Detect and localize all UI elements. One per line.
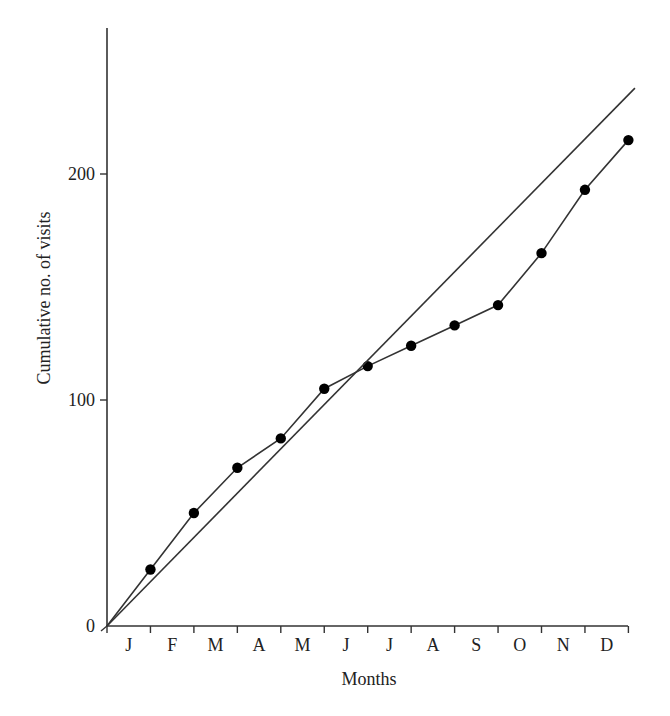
x-axis-title: Months [341, 669, 396, 689]
x-tick-label: F [167, 635, 177, 655]
y-tick-label-0: 0 [86, 616, 95, 636]
series-layer [107, 88, 635, 626]
data-point-marker [449, 320, 459, 330]
data-point-marker [363, 361, 373, 371]
cumulative-visits-chart: 0100200 JFMAMJJASOND Months Cumulative n… [0, 0, 670, 716]
x-tick-label: A [253, 635, 266, 655]
data-point-marker [493, 300, 503, 310]
x-tick-label: O [513, 635, 526, 655]
y-axis-title: Cumulative no. of visits [34, 212, 54, 385]
data-point-marker [536, 248, 546, 258]
y-ticks: 0100200 [68, 164, 107, 636]
x-tick-label: A [426, 635, 439, 655]
expected-line [107, 88, 635, 626]
x-tick-labels: JFMAMJJASOND [125, 635, 613, 655]
data-point-marker [189, 508, 199, 518]
x-tick-label: D [600, 635, 613, 655]
data-point-marker [580, 185, 590, 195]
data-point-marker [145, 564, 155, 574]
x-ticks [107, 626, 628, 633]
x-tick-label: J [125, 635, 132, 655]
x-tick-label: M [208, 635, 224, 655]
x-tick-label: S [471, 635, 481, 655]
x-tick-label: M [295, 635, 311, 655]
y-tick-label-100: 100 [68, 390, 95, 410]
x-tick-label: J [386, 635, 393, 655]
y-tick-label-200: 200 [68, 164, 95, 184]
data-point-marker [276, 433, 286, 443]
data-point-marker [406, 341, 416, 351]
origin-tick [101, 626, 107, 631]
data-point-marker [319, 384, 329, 394]
x-tick-label: N [557, 635, 570, 655]
data-point-marker [623, 135, 633, 145]
data-point-marker [232, 463, 242, 473]
observed-line [107, 140, 628, 626]
x-tick-label: J [342, 635, 349, 655]
